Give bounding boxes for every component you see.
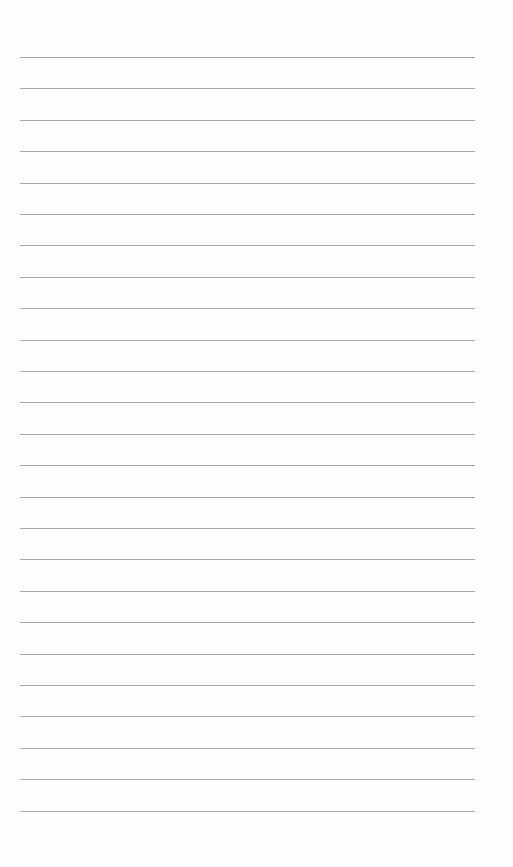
ruled-line (20, 88, 475, 89)
ruled-line (20, 465, 475, 466)
ruled-line (20, 402, 475, 403)
lined-paper-page (0, 0, 513, 867)
ruled-line (20, 779, 475, 780)
ruled-line (20, 591, 475, 592)
ruled-line (20, 748, 475, 749)
ruled-line (20, 716, 475, 717)
ruled-line (20, 371, 475, 372)
ruled-line (20, 559, 475, 560)
ruled-line (20, 277, 475, 278)
ruled-line (20, 340, 475, 341)
ruled-line (20, 308, 475, 309)
ruled-line (20, 685, 475, 686)
ruled-line (20, 654, 475, 655)
ruled-line (20, 622, 475, 623)
ruled-line (20, 214, 475, 215)
ruled-line (20, 57, 475, 58)
ruled-line (20, 245, 475, 246)
ruled-line (20, 811, 475, 812)
ruled-line (20, 528, 475, 529)
ruled-line (20, 497, 475, 498)
ruled-line (20, 151, 475, 152)
ruled-line (20, 120, 475, 121)
ruled-line (20, 434, 475, 435)
ruled-line (20, 183, 475, 184)
